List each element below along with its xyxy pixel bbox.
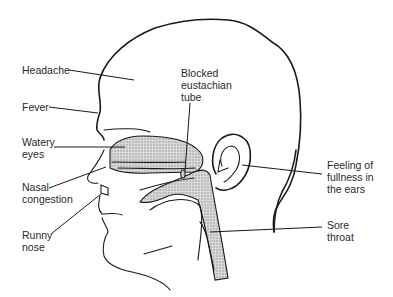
head-illustration xyxy=(0,0,393,297)
label-fullness-ears: Feeling of fullness in the ears xyxy=(327,159,374,195)
nostril xyxy=(101,185,108,195)
upper-lip xyxy=(99,196,122,215)
label-headache: Headache xyxy=(22,64,70,76)
leader-fever xyxy=(49,107,98,113)
ear-outer xyxy=(213,134,251,190)
label-nasal-congestion: Nasal congestion xyxy=(22,181,73,205)
face-profile xyxy=(97,78,104,140)
cold-symptoms-diagram: Headache Fever Watery eyes Nasal congest… xyxy=(0,0,393,297)
nose-outline xyxy=(88,150,104,183)
tongue xyxy=(150,200,202,260)
label-sore-throat: Sore throat xyxy=(327,219,354,243)
eye-bridge xyxy=(104,129,150,132)
leader-ears xyxy=(242,165,322,174)
leader-headache xyxy=(69,70,134,80)
jaw-line xyxy=(144,246,172,254)
ear-inner xyxy=(221,146,240,182)
eustachian-opening xyxy=(181,170,185,178)
neck-back xyxy=(274,150,296,232)
label-fever: Fever xyxy=(22,101,49,113)
label-watery-eyes: Watery eyes xyxy=(22,136,55,160)
leader-sore-throat xyxy=(210,227,322,232)
label-runny-nose: Runny nose xyxy=(22,229,52,253)
ear-canal xyxy=(218,160,228,172)
label-blocked-eustachian-tube: Blocked eustachian tube xyxy=(181,67,232,103)
lower-lip-chin xyxy=(102,218,170,290)
